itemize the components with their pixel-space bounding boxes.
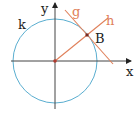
y-axis-label: y (40, 1, 49, 16)
x-axis-label: x (126, 64, 134, 79)
circle-label-k: k (18, 17, 26, 32)
origin-point (53, 59, 57, 63)
tangent-label-g: g (72, 4, 80, 19)
point-label-b: B (95, 31, 105, 46)
point-b (86, 34, 89, 37)
coordinate-diagram: y x k g h B (0, 0, 137, 114)
ray-label-h: h (106, 13, 115, 28)
